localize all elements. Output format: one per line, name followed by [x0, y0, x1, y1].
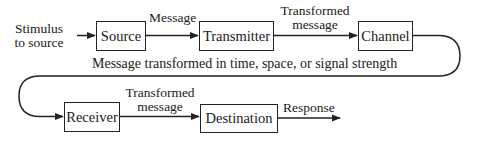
receiver-node: Receiver [64, 102, 120, 132]
receiver-label: Receiver [66, 109, 118, 126]
channel-label: Channel [361, 28, 409, 45]
transformed-line1: Transformed [280, 4, 350, 18]
response-label: Response [283, 101, 335, 115]
transformed-message-label-top: Transformed message [280, 4, 350, 32]
message-label: Message [149, 11, 196, 25]
transmitter-label: Transmitter [203, 28, 270, 45]
stimulus-label-line2: to source [2, 36, 76, 50]
destination-label: Destination [206, 110, 273, 127]
source-node: Source [96, 21, 146, 51]
source-label: Source [101, 28, 141, 45]
stimulus-label: Stimulus to source [2, 22, 76, 50]
transformed-message-label-bottom: Transformed message [125, 86, 195, 114]
transformed-line2: message [280, 18, 350, 32]
channel-transform-label: Message transformed in time, space, or s… [92, 57, 397, 71]
transformed-bottom-line2: message [125, 100, 195, 114]
transmitter-node: Transmitter [199, 21, 274, 51]
stimulus-label-line1: Stimulus [2, 22, 76, 36]
channel-node: Channel [358, 21, 413, 51]
transformed-bottom-line1: Transformed [125, 86, 195, 100]
destination-node: Destination [200, 104, 278, 133]
